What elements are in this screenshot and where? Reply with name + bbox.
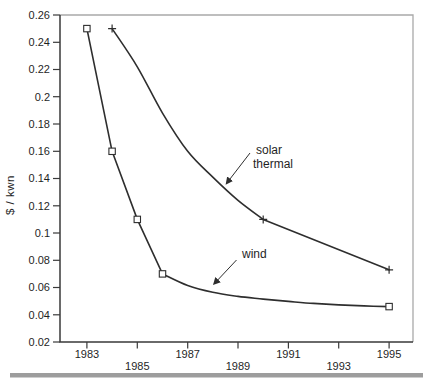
y-axis-tick-label: 0.1 xyxy=(35,227,50,239)
y-axis-tick-label: 0.12 xyxy=(29,200,50,212)
wind-data-marker xyxy=(159,271,165,277)
x-axis-tick-label: 1995 xyxy=(377,348,401,360)
y-axis-tick-label: 0.06 xyxy=(29,281,50,293)
figure-background xyxy=(0,0,423,380)
y-axis-tick-label: 0.04 xyxy=(29,309,50,321)
x-axis-tick-label: 1989 xyxy=(226,360,250,372)
y-axis-tick-label: 0.24 xyxy=(29,36,50,48)
energy-cost-chart-figure: 0.260.240.220.20.180.160.140.120.10.080.… xyxy=(0,0,423,380)
y-axis-tick-label: 0.08 xyxy=(29,254,50,266)
wind-data-marker xyxy=(109,148,115,154)
x-axis-tick-label: 1993 xyxy=(326,360,350,372)
cost-per-kwh-line-chart: 0.260.240.220.20.180.160.140.120.10.080.… xyxy=(0,0,423,380)
x-axis-tick-label: 1991 xyxy=(276,348,300,360)
solar-thermal-annotation-label: thermal xyxy=(253,157,293,171)
y-axis-tick-label: 0.18 xyxy=(29,118,50,130)
bottom-rule-bar xyxy=(10,373,423,378)
y-axis-title: $ / kwn xyxy=(4,175,16,215)
y-axis-tick-label: 0.26 xyxy=(29,9,50,21)
y-axis-tick-label: 0.22 xyxy=(29,63,50,75)
x-axis-tick-label: 1985 xyxy=(125,360,149,372)
solar-thermal-annotation-label: solar xyxy=(256,143,282,157)
wind-data-marker xyxy=(386,303,392,309)
y-axis-tick-label: 0.02 xyxy=(29,336,50,348)
wind-data-marker xyxy=(84,25,90,31)
y-axis-tick-label: 0.14 xyxy=(29,172,50,184)
wind-data-marker xyxy=(134,216,140,222)
wind-annotation-label: wind xyxy=(241,247,267,261)
x-axis-tick-label: 1983 xyxy=(75,348,99,360)
x-axis-tick-label: 1987 xyxy=(175,348,199,360)
y-axis-tick-label: 0.2 xyxy=(35,91,50,103)
y-axis-tick-label: 0.16 xyxy=(29,145,50,157)
